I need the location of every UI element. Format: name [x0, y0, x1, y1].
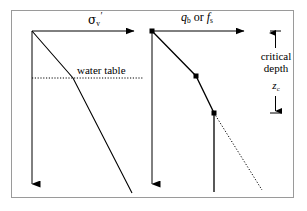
z-symbol: z	[272, 79, 276, 91]
left-plot-group	[32, 31, 144, 193]
sigma-subscript: v	[96, 19, 100, 28]
sigma-prime: ′	[100, 11, 102, 21]
right-plot-group	[150, 29, 263, 193]
right-plot-extrapolation-dotted	[214, 113, 262, 190]
axis-label-qb-or-fs: qb or fs	[181, 11, 213, 24]
conjunction-or: or	[194, 10, 204, 24]
critical-depth-line-1: critical	[261, 50, 292, 62]
right-plot-resistance-curve	[152, 31, 214, 192]
critical-depth-line-2: depth	[264, 62, 288, 74]
figure-root: σv′ qb or fs water table critical depth …	[0, 0, 307, 211]
fs-subscript: s	[210, 16, 213, 25]
z-subscript: c	[277, 85, 280, 92]
critical-depth-symbol-label: zc	[253, 80, 299, 92]
left-plot-stress-curve	[32, 31, 132, 193]
sigma-symbol: σ	[88, 13, 96, 27]
critical-depth-label: critical depth	[253, 51, 299, 74]
water-table-label: water table	[77, 65, 126, 77]
axis-label-sigma-v-effective: σv′	[88, 12, 102, 27]
data-point-marker-critical	[212, 111, 217, 116]
data-point-marker-surface	[150, 29, 155, 34]
data-point-marker-break	[194, 74, 199, 79]
figure-drawing	[0, 0, 307, 211]
qb-subscript: b	[187, 16, 191, 25]
